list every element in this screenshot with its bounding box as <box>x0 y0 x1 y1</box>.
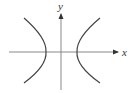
hyperbola-diagram: x y <box>0 0 136 93</box>
hyperbola-left-branch <box>24 18 46 83</box>
x-axis-label: x <box>121 46 127 58</box>
y-axis-label: y <box>57 0 63 12</box>
hyperbola-right-branch <box>77 18 100 83</box>
